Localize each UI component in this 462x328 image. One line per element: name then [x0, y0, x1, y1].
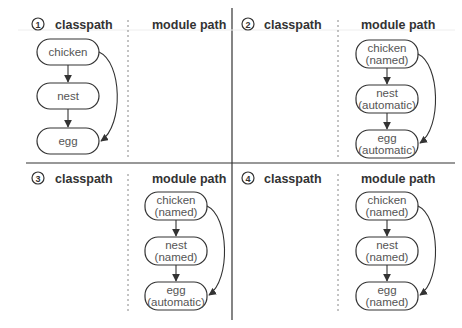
dependency-arrow [99, 52, 117, 141]
classpath-header: classpath [55, 18, 113, 32]
panel-number: 2 [245, 20, 250, 30]
classpath-header: classpath [264, 172, 322, 186]
node-label: nest [376, 87, 399, 99]
panel-2: 2 classpath module path chicken (named) … [242, 18, 436, 158]
node-label: chicken [368, 42, 407, 54]
panel-number: 4 [245, 174, 250, 184]
panel-4: 4 classpath module path chicken (named) … [242, 172, 436, 310]
module-path-header: module path [361, 18, 435, 32]
dependency-arrow [418, 206, 436, 295]
node-type: (named) [366, 296, 409, 308]
node-type: (named) [366, 54, 409, 66]
classpath-header: classpath [55, 172, 113, 186]
module-path-header: module path [361, 172, 435, 186]
node-type: (automatic) [358, 99, 416, 111]
panel-1: 1 classpath module path chicken nest egg [32, 18, 226, 154]
node-type: (automatic) [147, 296, 205, 308]
panel-number: 3 [35, 174, 40, 184]
node-label: nest [57, 90, 80, 102]
node-type: (named) [366, 251, 409, 263]
node-label: chicken [157, 194, 196, 206]
module-path-header: module path [152, 18, 226, 32]
node-label: egg [58, 135, 77, 147]
dependency-arrow [418, 54, 436, 143]
node-type: (named) [155, 251, 198, 263]
node-type: (automatic) [358, 144, 416, 156]
node-type: (named) [366, 206, 409, 218]
diagram-canvas: 1 classpath module path chicken nest egg… [0, 0, 462, 328]
node-type: (named) [155, 206, 198, 218]
node-label: chicken [49, 46, 88, 58]
classpath-header: classpath [264, 18, 322, 32]
panel-number: 1 [35, 20, 40, 30]
node-label: egg [166, 284, 185, 296]
module-path-header: module path [152, 172, 226, 186]
dependency-arrow [207, 206, 225, 295]
node-label: egg [377, 132, 396, 144]
node-label: nest [376, 239, 399, 251]
node-label: nest [165, 239, 188, 251]
node-label: egg [377, 284, 396, 296]
panel-3: 3 classpath module path chicken (named) … [32, 172, 226, 310]
node-label: chicken [368, 194, 407, 206]
